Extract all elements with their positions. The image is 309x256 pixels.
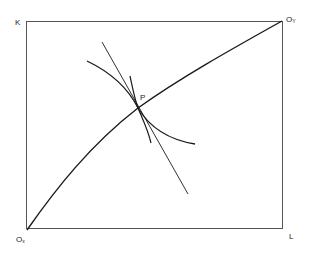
edgeworth-box-diagram <box>0 0 309 256</box>
edgeworth-box-frame <box>27 22 283 229</box>
contract-curve <box>27 21 282 230</box>
origin-x-label: Ox <box>16 236 25 244</box>
origin-y-subscript: Y <box>292 18 295 24</box>
l-axis-label: L <box>289 233 293 241</box>
isoquant-x <box>87 61 195 144</box>
origin-x-subscript: x <box>22 238 25 244</box>
origin-y-label: OY <box>286 16 296 24</box>
point-p-label: P <box>140 94 145 102</box>
k-axis-label: K <box>15 19 20 27</box>
